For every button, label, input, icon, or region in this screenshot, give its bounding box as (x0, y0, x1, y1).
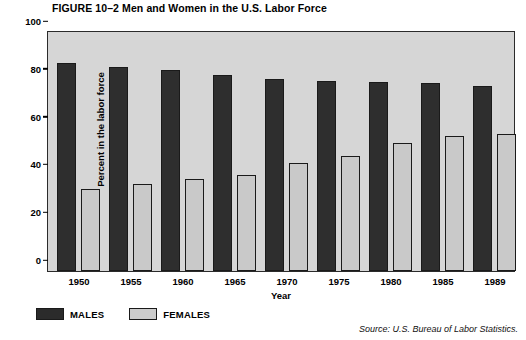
bar-group: 1965 (213, 32, 265, 271)
bar-males-1975[interactable] (317, 81, 336, 271)
bar-females-1980[interactable] (393, 143, 412, 271)
bar-females-1955[interactable] (133, 184, 152, 271)
x-axis-tick-1970: 1970 (261, 271, 313, 287)
x-axis-tick-1980: 1980 (365, 271, 417, 287)
bar-males-1960[interactable] (161, 70, 180, 271)
bar-group: 1989 (473, 32, 525, 271)
y-axis-tick-80: 80 (12, 63, 48, 74)
legend-label: FEMALES (163, 309, 210, 320)
bar-males-1950[interactable] (57, 63, 76, 271)
x-axis-tick-1985: 1985 (417, 271, 469, 287)
bar-males-1980[interactable] (369, 82, 388, 271)
source-note: Source: U.S. Bureau of Labor Statistics. (359, 324, 518, 334)
x-axis-tick-1950: 1950 (53, 271, 105, 287)
x-axis-tick-1975: 1975 (313, 271, 365, 287)
x-axis-tick-1960: 1960 (157, 271, 209, 287)
x-axis-tick-1955: 1955 (105, 271, 157, 287)
legend-item-females[interactable]: FEMALES (129, 308, 210, 320)
y-axis-tick-0: 0 (12, 255, 48, 266)
figure-title: FIGURE 10–2 Men and Women in the U.S. La… (52, 2, 327, 14)
bar-males-1989[interactable] (473, 86, 492, 271)
x-axis-label: Year (47, 290, 515, 301)
y-axis-tick-40: 40 (12, 159, 48, 170)
figure-container: FIGURE 10–2 Men and Women in the U.S. La… (0, 0, 526, 340)
bar-males-1970[interactable] (265, 79, 284, 271)
legend-item-males[interactable]: MALES (36, 308, 104, 320)
bar-males-1955[interactable] (109, 67, 128, 271)
bar-females-1975[interactable] (341, 156, 360, 271)
bar-group: 1985 (421, 32, 473, 271)
legend-label: MALES (70, 309, 104, 320)
y-axis-tick-20: 20 (12, 207, 48, 218)
chart-plot-area: Percent in the labor force 0204060801001… (47, 31, 515, 272)
bar-group: 1960 (161, 32, 213, 271)
y-axis-tick-60: 60 (12, 111, 48, 122)
bar-females-1970[interactable] (289, 163, 308, 271)
bar-females-1989[interactable] (497, 134, 516, 271)
x-axis-tick-1965: 1965 (209, 271, 261, 287)
bar-females-1965[interactable] (237, 175, 256, 271)
bar-group: 1970 (265, 32, 317, 271)
x-axis-tick-1989: 1989 (469, 271, 521, 287)
bar-group: 1975 (317, 32, 369, 271)
bar-females-1985[interactable] (445, 136, 464, 271)
legend-swatch-icon (129, 308, 157, 320)
chart-legend: MALESFEMALES (36, 308, 226, 320)
bar-group: 1955 (109, 32, 161, 271)
bar-females-1960[interactable] (185, 179, 204, 271)
y-axis-tick-100: 100 (12, 16, 48, 27)
bar-group: 1950 (57, 32, 109, 271)
bar-females-1950[interactable] (81, 189, 100, 271)
bar-males-1985[interactable] (421, 83, 440, 271)
bar-group: 1980 (369, 32, 421, 271)
legend-swatch-icon (36, 308, 64, 320)
bar-males-1965[interactable] (213, 75, 232, 271)
